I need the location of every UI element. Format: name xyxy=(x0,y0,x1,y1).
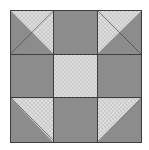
quilt-cell-center xyxy=(54,55,97,99)
quilt-block-frame xyxy=(10,10,142,143)
quilt-cell-middle-left xyxy=(11,55,54,99)
quilt-cell-top-right xyxy=(98,11,141,55)
quilt-cell-top-left xyxy=(11,11,54,55)
quilt-cell-middle-right xyxy=(98,55,141,99)
patch-solid-gray xyxy=(54,98,96,142)
quilt-cell-top-center xyxy=(54,11,97,55)
patch-solid-gray xyxy=(54,11,96,54)
quilt-grid xyxy=(11,11,141,142)
quilt-cell-bottom-left xyxy=(11,98,54,142)
patch-solid-gray xyxy=(11,55,53,98)
patch-solid-gray xyxy=(98,55,141,98)
quilt-cell-bottom-center xyxy=(54,98,97,142)
patch-checkered xyxy=(54,55,96,98)
quilt-cell-bottom-right xyxy=(98,98,141,142)
quilt-block-figure xyxy=(0,0,149,150)
